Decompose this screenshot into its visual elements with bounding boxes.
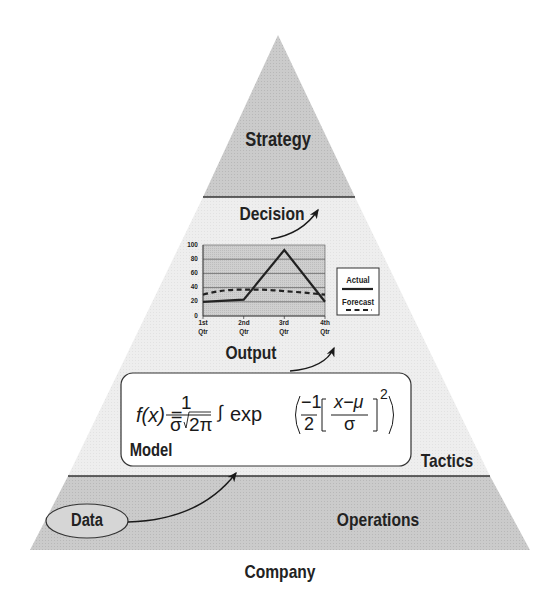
formula-exp: exp — [230, 403, 262, 426]
xtick-4th: 4thQtr — [317, 318, 334, 336]
model-label: Model — [122, 440, 179, 461]
legend-actual-label: Actual — [340, 275, 376, 285]
formula-numerator: 1 — [181, 392, 192, 414]
company-caption: Company — [235, 561, 325, 583]
formula-power: 2 — [380, 386, 388, 402]
operations-label: Operations — [329, 509, 427, 531]
strategy-label: Strategy — [241, 128, 315, 151]
ytick-40: 40 — [184, 282, 198, 291]
ytick-100: 100 — [184, 240, 198, 249]
data-label: Data — [62, 510, 111, 531]
ytick-60: 60 — [184, 268, 198, 277]
forecast-chart — [203, 245, 325, 319]
ytick-80: 80 — [184, 254, 198, 263]
xtick-3rd: 3rdQtr — [276, 318, 293, 336]
pyramid-diagram: Strategy Tactics Operations Company Deci… — [0, 0, 559, 610]
decision-label: Decision — [239, 203, 305, 225]
legend-forecast-label: Forecast — [340, 297, 376, 307]
tactics-label: Tactics — [414, 450, 480, 472]
formula-inner-den: 2 — [304, 414, 314, 435]
formula-integral: ∫ — [218, 402, 223, 423]
formula-sigma: σ — [170, 414, 182, 436]
xtick-2nd: 2ndQtr — [236, 318, 253, 336]
output-label: Output — [218, 342, 284, 364]
strategy-level — [203, 35, 355, 197]
formula-frac-num: x−μ — [334, 392, 363, 413]
ytick-20: 20 — [184, 296, 198, 305]
formula-root: 2π — [189, 414, 213, 436]
formula-frac-den: σ — [344, 414, 355, 435]
formula-inner-num: −1 — [301, 392, 322, 413]
xtick-1st: 1stQtr — [195, 318, 212, 336]
